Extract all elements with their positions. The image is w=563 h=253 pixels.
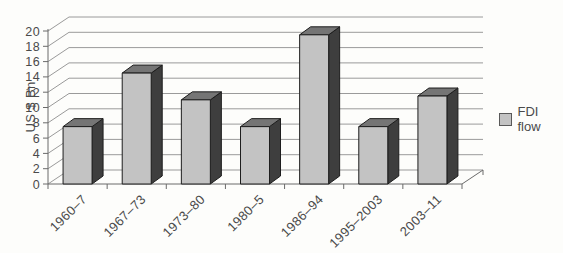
- fdi-flow-3d-bar-chart: 024681012141618201960–71967–731973–80198…: [0, 0, 563, 253]
- gridline-20: [48, 17, 483, 31]
- gridline-14: [48, 63, 483, 77]
- bar-side-1960–7: [92, 119, 103, 184]
- x-category-label-1995–2003: 1995–2003: [326, 192, 385, 251]
- x-category-label-1967–73: 1967–73: [100, 192, 148, 240]
- chart-svg: 024681012141618201960–71967–731973–80198…: [0, 0, 563, 253]
- bar-1967–73: [122, 73, 151, 184]
- x-category-label-1986–94: 1986–94: [278, 192, 326, 240]
- legend: FDI flow: [499, 104, 563, 134]
- bar-1973–80: [181, 100, 210, 184]
- legend-swatch-fdi-flow: [499, 113, 512, 126]
- bar-side-1973–80: [210, 92, 221, 184]
- bar-1995–2003: [359, 127, 388, 184]
- y-axis-title: US $ Bn: [23, 66, 39, 148]
- gridline-16: [48, 48, 483, 62]
- gridline-12: [48, 78, 483, 92]
- bar-2003–11: [418, 96, 447, 184]
- bar-side-2003–11: [447, 88, 458, 184]
- x-category-label-1973–80: 1973–80: [160, 192, 208, 240]
- x-category-label-2003–11: 2003–11: [397, 192, 445, 240]
- legend-label-fdi-flow: FDI flow: [518, 104, 563, 134]
- bar-1986–94: [300, 35, 329, 184]
- x-category-label-1980–5: 1980–5: [224, 192, 267, 235]
- y-tick-label-18: 18: [25, 40, 40, 54]
- bar-1960–7: [63, 127, 92, 184]
- bar-side-1986–94: [329, 27, 340, 184]
- bar-side-1967–73: [151, 65, 162, 184]
- y-tick-label-20: 20: [25, 25, 40, 39]
- y-tick-label-0: 0: [33, 178, 40, 192]
- bar-side-1980–5: [270, 119, 281, 184]
- gridline-18: [48, 32, 483, 46]
- floor-right-edge: [462, 170, 483, 184]
- y-tick-label-4: 4: [33, 147, 40, 161]
- bar-1980–5: [241, 127, 270, 184]
- bar-side-1995–2003: [388, 119, 399, 184]
- y-tick-label-2: 2: [33, 162, 40, 176]
- x-category-label-1960–7: 1960–7: [47, 192, 90, 235]
